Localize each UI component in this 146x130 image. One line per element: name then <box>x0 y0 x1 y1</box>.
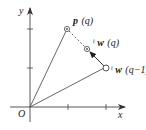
label-w-qm1-vec: w <box>115 64 122 75</box>
origin-label: O <box>18 108 25 119</box>
x-axis-label: x <box>117 109 123 120</box>
label-w-q: i w (q) <box>93 34 120 49</box>
label-w-q-minus-1: i w (q−1) <box>111 61 146 76</box>
point-w-q-minus-1 <box>103 65 109 71</box>
label-w-q-pre: i <box>93 38 95 44</box>
vector-p-q <box>30 29 67 107</box>
label-w-qm1-pre: i <box>111 65 113 71</box>
label-w-qm1-arg: (q−1) <box>125 64 146 76</box>
y-axis-label: y <box>18 5 24 16</box>
update-arrow <box>90 52 104 66</box>
point-p-q <box>64 26 69 31</box>
label-p-q-vec: p <box>72 15 78 26</box>
vector-w-q-minus-1 <box>30 68 104 107</box>
label-p-q: p (q) <box>72 15 94 27</box>
dashed-segment-p-to-w <box>69 31 85 47</box>
vector-diagram: y x O p (q) i w (q) i w (q−1) <box>0 0 146 130</box>
label-w-q-arg: (q) <box>107 37 119 49</box>
label-w-q-vec: w <box>97 37 104 48</box>
label-p-q-arg: (q) <box>82 15 94 27</box>
point-w-q <box>84 46 89 51</box>
